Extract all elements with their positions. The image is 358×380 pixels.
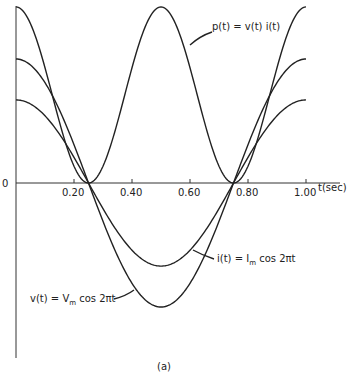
p-label: p(t) = v(t) i(t) xyxy=(212,21,280,32)
x-tick-label: 0.40 xyxy=(120,187,142,198)
v-label: v(t) = Vm cos 2πt xyxy=(30,293,116,307)
power-curve xyxy=(16,7,306,183)
p-label-leader xyxy=(190,32,212,45)
i-label: i(t) = Im cos 2πt xyxy=(217,253,296,267)
x-ticks: 0.200.400.600.801.00 xyxy=(62,179,316,198)
x-tick-label: 0.60 xyxy=(178,187,200,198)
x-tick-label: 0.20 xyxy=(62,187,84,198)
origin-label: 0 xyxy=(2,178,8,189)
chart: 0.200.400.600.801.00 0 t(sec) p(t) = v(t… xyxy=(0,0,358,380)
figure-caption: (a) xyxy=(157,361,171,372)
x-tick-label: 1.00 xyxy=(294,187,316,198)
x-tick-label: 0.80 xyxy=(236,187,258,198)
v-label-leader xyxy=(114,290,134,299)
x-axis-label: t(sec) xyxy=(318,182,347,193)
